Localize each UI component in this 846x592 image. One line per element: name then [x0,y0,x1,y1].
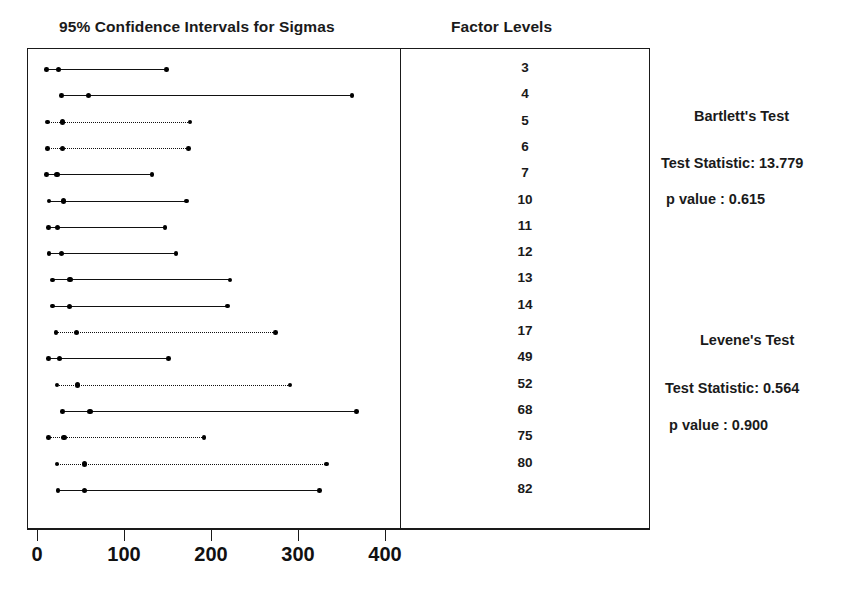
interval-lower-marker [45,120,50,125]
interval-row [0,57,400,83]
interval-upper-marker [225,304,230,309]
confidence-interval-line [57,464,327,465]
interval-row [0,399,400,425]
interval-center-marker [87,409,92,414]
interval-lower-marker [44,172,49,177]
interval-lower-marker [55,383,60,388]
bartlett-test-statistic: Test Statistic: 13.779 [661,155,803,171]
interval-center-marker [57,356,62,361]
levene-test-statistic: Test Statistic: 0.564 [665,380,799,396]
interval-row [0,320,400,346]
interval-upper-marker [166,356,171,361]
interval-center-marker [61,198,66,203]
factor-level-label: 75 [495,428,555,443]
factor-level-label: 3 [495,60,555,75]
interval-upper-marker [324,462,329,467]
confidence-interval-line [61,95,352,96]
confidence-interval-line [47,69,167,70]
interval-center-marker [54,172,59,177]
factor-level-label: 5 [495,113,555,128]
interval-upper-marker [202,435,207,440]
interval-upper-marker [273,330,278,335]
interval-row [0,241,400,267]
interval-center-marker [61,435,66,440]
interval-lower-marker [55,462,60,467]
interval-lower-marker [44,67,49,72]
factor-level-label: 4 [495,86,555,101]
interval-upper-marker [188,120,193,125]
interval-upper-marker [228,278,233,283]
x-axis-tick-label: 300 [263,543,333,566]
confidence-interval-line [49,253,176,254]
x-axis-tick-label: 400 [350,543,420,566]
interval-lower-marker [46,225,51,230]
factor-level-label: 82 [495,481,555,496]
factor-level-label: 52 [495,376,555,391]
interval-lower-marker [45,146,50,151]
interval-upper-marker [350,93,355,98]
confidence-interval-line [47,174,152,175]
interval-upper-marker [163,225,168,230]
x-axis-tick-label: 200 [176,543,246,566]
interval-center-marker [86,93,91,98]
interval-upper-marker [184,199,189,204]
factor-level-label: 17 [495,323,555,338]
interval-upper-marker [317,488,322,493]
confidence-interval-line [47,148,188,149]
factor-level-label: 11 [495,218,555,233]
interval-row [0,452,400,478]
interval-center-marker [75,382,80,387]
interval-lower-marker [46,435,51,440]
factor-level-label: 14 [495,297,555,312]
interval-lower-marker [50,278,55,283]
x-axis-tick [298,530,299,541]
interval-row [0,425,400,451]
factor-level-label: 10 [495,192,555,207]
factor-level-label: 12 [495,244,555,259]
interval-row [0,189,400,215]
confidence-interval-line [56,332,275,333]
interval-center-marker [82,488,87,493]
x-axis-tick [124,530,125,541]
interval-center-marker [55,225,60,230]
factor-level-label: 7 [495,165,555,180]
x-axis-tick-label: 100 [89,543,159,566]
interval-row [0,478,400,504]
interval-row [0,267,400,293]
page-title: 95% Confidence Intervals for Sigmas [59,18,335,36]
bartlett-test-heading: Bartlett's Test [694,108,789,124]
interval-lower-marker [56,488,61,493]
factor-level-label: 80 [495,455,555,470]
confidence-interval-chart: 95% Confidence Intervals for Sigmas Fact… [0,0,846,592]
interval-center-marker [56,67,61,72]
interval-lower-marker [47,199,52,204]
factor-level-label: 68 [495,402,555,417]
confidence-interval-line [47,122,190,123]
confidence-interval-line [53,306,228,307]
levene-test-heading: Levene's Test [700,332,794,348]
interval-upper-marker [186,146,191,151]
x-axis-tick [211,530,212,541]
x-axis-tick [37,530,38,541]
factor-level-label: 49 [495,349,555,364]
confidence-interval-line [48,437,204,438]
interval-upper-marker [288,383,293,388]
interval-upper-marker [354,409,359,414]
factor-levels-column-title: Factor Levels [451,18,552,36]
confidence-interval-line [58,490,320,491]
interval-center-marker [82,461,87,466]
interval-row [0,136,400,162]
interval-upper-marker [150,172,155,177]
bartlett-p-value: p value : 0.615 [666,191,765,207]
interval-center-marker [67,277,72,282]
interval-upper-marker [164,67,169,72]
interval-row [0,294,400,320]
interval-row [0,373,400,399]
levene-p-value: p value : 0.900 [669,417,768,433]
interval-center-marker [60,119,65,124]
interval-lower-marker [54,330,59,335]
interval-row [0,110,400,136]
interval-center-marker [74,330,79,335]
x-axis-tick-label: 0 [2,543,72,566]
interval-row [0,346,400,372]
